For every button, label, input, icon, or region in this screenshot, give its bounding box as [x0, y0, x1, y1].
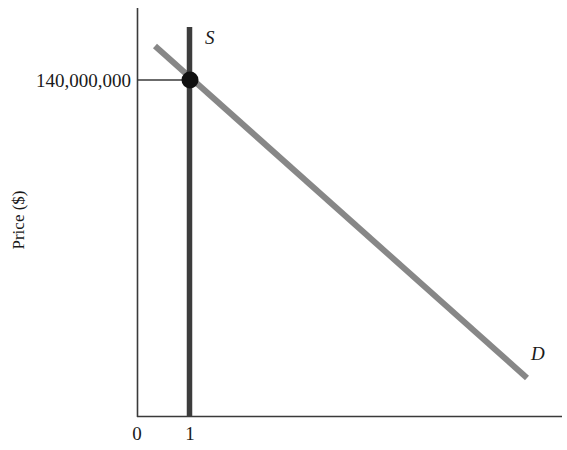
- x-tick-label-1: 1: [185, 423, 195, 444]
- supply-curve-label: S: [205, 27, 215, 48]
- equilibrium-point-marker: [182, 72, 199, 89]
- equilibrium-price-label: 140,000,000: [36, 70, 131, 91]
- x-tick-label-0: 0: [132, 423, 142, 444]
- demand-curve: [155, 46, 527, 378]
- y-axis-title: Price ($): [9, 190, 28, 249]
- demand-curve-label: D: [530, 343, 545, 364]
- supply-demand-chart: S D 140,000,000 0 1 Price ($): [0, 0, 567, 450]
- chart-canvas: S D 140,000,000 0 1 Price ($): [0, 0, 567, 450]
